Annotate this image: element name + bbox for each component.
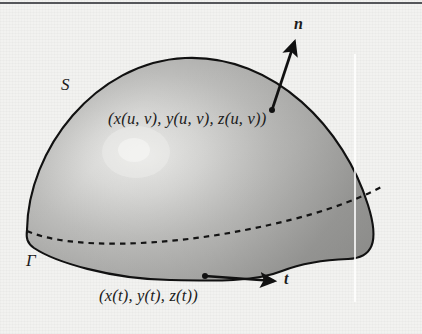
tangent-anchor-dot bbox=[202, 273, 208, 279]
boundary-label-gamma: Γ bbox=[26, 252, 36, 269]
scan-artifact-line bbox=[354, 54, 356, 302]
surface-edge-shading bbox=[27, 58, 374, 281]
surface-point-coordinates: (x(u, v), y(u, v), z(u, v)) bbox=[108, 111, 266, 128]
tangent-vector-label-t: t bbox=[284, 271, 288, 287]
surface-highlight-core bbox=[118, 138, 150, 162]
surface-diagram bbox=[0, 0, 422, 334]
curve-point-coordinates: (x(t), y(t), z(t)) bbox=[99, 288, 198, 305]
normal-vector-label-n: n bbox=[294, 16, 303, 32]
normal-anchor-dot bbox=[269, 107, 275, 113]
surface-label-S: S bbox=[61, 76, 70, 93]
